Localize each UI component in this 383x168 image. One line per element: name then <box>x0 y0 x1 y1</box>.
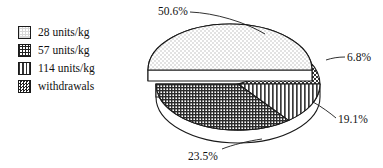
pie-body-group <box>148 12 345 149</box>
legend-label-28: 28 units/kg <box>38 26 89 39</box>
pie-slice-28-cut-wall <box>148 70 312 81</box>
legend-label-114: 114 units/kg <box>38 62 95 75</box>
slice-label-114: 19.1% <box>338 113 368 125</box>
slice-label-57: 23.5% <box>188 150 218 162</box>
slice-label-28: 50.6% <box>158 5 188 17</box>
legend-item-114: 114 units/kg <box>18 60 138 76</box>
pie-slice-28-top <box>148 24 312 70</box>
legend-item-57: 57 units/kg <box>18 42 138 58</box>
checkerboard-swatch-icon <box>18 80 31 93</box>
fine-dot-swatch-icon <box>18 26 31 39</box>
legend-label-57: 57 units/kg <box>38 44 89 57</box>
pie-slice-28-exploded-group <box>148 24 312 81</box>
legend-item-withdrawals: withdrawals <box>18 78 138 94</box>
legend-label-withdrawals: withdrawals <box>38 80 94 93</box>
pie-chart-figure: 50.6% 6.8% 19.1% 23.5% 28 units/kg 57 un… <box>0 0 383 168</box>
legend-item-28: 28 units/kg <box>18 24 138 40</box>
chart-legend: 28 units/kg 57 units/kg 114 units/kg wit… <box>18 24 138 96</box>
leader-line-6-8 <box>326 57 345 60</box>
grid-hatch-swatch-icon <box>18 44 31 57</box>
vertical-line-swatch-icon <box>18 62 31 75</box>
slice-label-withdrawals: 6.8% <box>347 51 371 63</box>
